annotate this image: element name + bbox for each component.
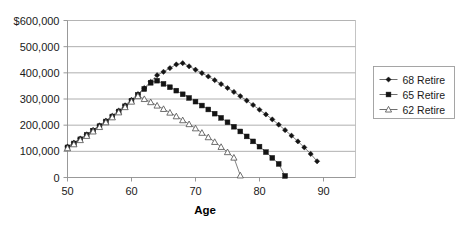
data-point-marker-square (142, 87, 147, 92)
x-axis-tick-label: 80 (253, 185, 265, 197)
x-axis-tick-label: 90 (317, 185, 329, 197)
chart-legend: 68 Retire65 Retire62 Retire (374, 67, 455, 119)
data-point-marker-square (161, 81, 166, 86)
x-axis-tick-label: 70 (189, 185, 201, 197)
y-axis-tick-label: 100,000 (20, 145, 60, 157)
y-axis-tick-label: 300,000 (20, 93, 60, 105)
data-point-marker-square (283, 174, 288, 179)
data-point-marker-square (225, 120, 230, 125)
line-chart: 0100,000200,000300,000400,000500,000$600… (0, 0, 459, 227)
data-point-marker-square (180, 92, 185, 97)
data-point-marker-square (270, 155, 275, 160)
data-point-marker-square (219, 115, 224, 120)
data-point-marker-square (168, 85, 173, 90)
legend-label: 65 Retire (403, 89, 446, 101)
y-axis-tick-label: 400,000 (20, 67, 60, 79)
legend-label: 68 Retire (403, 74, 446, 86)
data-point-marker-square (148, 80, 153, 85)
data-point-marker-square (238, 129, 243, 134)
data-point-marker-square (174, 88, 179, 93)
data-point-marker-square (386, 92, 391, 97)
data-point-marker-square (200, 103, 205, 108)
x-axis-title: Age (194, 204, 216, 216)
x-axis-tick-label: 60 (125, 185, 137, 197)
data-point-marker-square (193, 99, 198, 104)
data-point-marker-square (251, 139, 256, 144)
data-point-marker-square (206, 107, 211, 112)
data-point-marker-square (276, 161, 281, 166)
data-point-marker-square (212, 111, 217, 116)
y-axis-tick-label: $600,000 (14, 15, 60, 27)
y-axis-tick-label: 500,000 (20, 41, 60, 53)
data-point-marker-square (244, 134, 249, 139)
x-axis-tick-label: 50 (61, 185, 73, 197)
data-point-marker-square (187, 96, 192, 101)
data-point-marker-square (257, 144, 262, 149)
data-point-marker-square (264, 150, 269, 155)
legend-label: 62 Retire (403, 104, 446, 116)
chart-container: 0100,000200,000300,000400,000500,000$600… (0, 0, 459, 227)
y-axis-tick-label: 0 (53, 172, 59, 184)
y-axis-tick-label: 200,000 (20, 119, 60, 131)
data-point-marker-square (232, 124, 237, 129)
data-point-marker-square (155, 78, 160, 83)
